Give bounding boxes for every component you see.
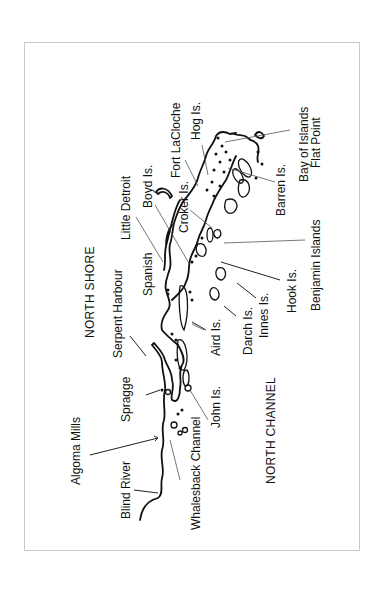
label-whalesback-channel: Whalesback Channel (189, 417, 203, 530)
label-hook-is: Hook Is. (285, 269, 299, 313)
label-blind-river: Blind River (119, 461, 133, 519)
label-barren-is: Barren Is. (274, 164, 288, 216)
label-spragge: Spragge (119, 376, 133, 422)
label-serpent-harbour: Serpent Harbour (111, 269, 125, 358)
label-north-channel: NORTH CHANNEL (264, 377, 278, 484)
label-flat-point: Flat Point (309, 117, 323, 168)
label-john-is: John Is. (209, 386, 223, 428)
label-little-detroit: Little Detroit (119, 175, 133, 240)
label-spanish: Spanish (141, 253, 155, 296)
label-north-shore: NORTH SHORE (83, 246, 97, 338)
label-innes-is: Innes Is. (257, 293, 271, 338)
label-hog-is: Hog Is. (189, 102, 203, 140)
label-croker-is: Croker Is. (177, 181, 191, 233)
label-benjamin-islands: Benjamin Islands (309, 220, 323, 311)
label-fort-lacloche: Fort LaCloche (169, 102, 183, 178)
label-boyd-is: Boyd Is. (141, 165, 155, 208)
label-algoma-mills: Algoma Mills (69, 417, 83, 485)
label-darch-is: Darch Is. (241, 307, 255, 355)
bay-of-islands-coast (234, 132, 264, 162)
boyd-hook (156, 189, 172, 198)
north-channel-map: NORTH SHORE NORTH CHANNEL Blind River Al… (0, 0, 377, 600)
label-aird-is: Aird Is. (209, 319, 223, 356)
